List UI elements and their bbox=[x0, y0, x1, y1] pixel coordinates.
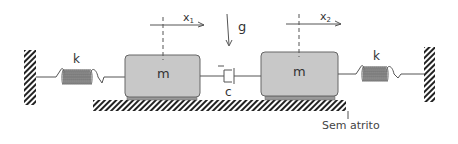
x2-reference bbox=[286, 14, 341, 57]
spring-left bbox=[36, 69, 126, 85]
diagram-canvas bbox=[0, 0, 458, 144]
mass-2-label: m bbox=[293, 65, 306, 78]
x2-label: x2 bbox=[320, 11, 331, 24]
spring-right bbox=[338, 66, 424, 82]
x2-subscript: 2 bbox=[327, 16, 331, 24]
x1-label: x1 bbox=[183, 12, 194, 25]
x1-reference bbox=[150, 17, 204, 60]
right-wall bbox=[424, 47, 435, 102]
damper-label: c bbox=[225, 86, 232, 98]
gravity-arrow bbox=[226, 14, 232, 46]
spring-left-label: k bbox=[73, 53, 80, 65]
floor-note: Sem atrito bbox=[322, 120, 380, 131]
gravity-label: g bbox=[238, 20, 246, 33]
mass-1-label: m bbox=[157, 67, 170, 80]
mass-2-base bbox=[265, 96, 335, 100]
damper bbox=[200, 66, 261, 84]
left-wall bbox=[24, 50, 36, 105]
spring-right-label: k bbox=[373, 50, 380, 62]
floor bbox=[93, 100, 346, 111]
x1-subscript: 1 bbox=[190, 17, 194, 25]
